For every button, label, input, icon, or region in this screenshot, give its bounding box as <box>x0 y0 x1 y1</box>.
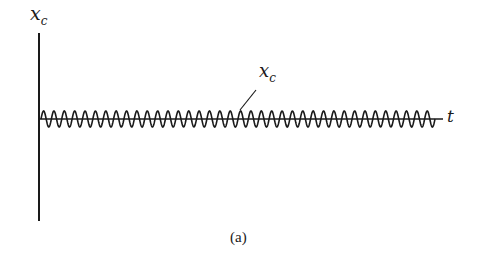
y-axis-label-subscript: c <box>41 14 48 28</box>
y-axis-label: xc <box>30 2 47 28</box>
y-axis-label-text: x <box>30 2 41 24</box>
figure-caption: (a) <box>230 229 247 246</box>
x-axis-label: t <box>447 106 454 126</box>
curve-label-text: x <box>259 60 269 81</box>
curve-label-leader <box>240 90 256 110</box>
plot-canvas <box>0 0 478 256</box>
curve-label: xc <box>259 60 276 85</box>
curve-label-subscript: c <box>269 71 276 85</box>
